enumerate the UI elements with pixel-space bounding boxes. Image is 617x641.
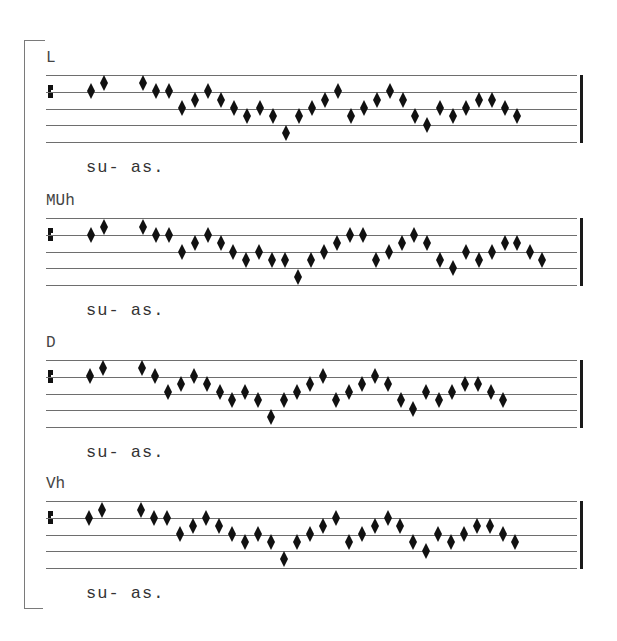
diamond-note-icon xyxy=(189,518,197,534)
diamond-note-icon xyxy=(100,75,108,91)
diamond-note-icon xyxy=(501,100,509,116)
diamond-note-icon xyxy=(228,526,236,542)
diamond-note-icon xyxy=(98,502,106,518)
diamond-note-icon xyxy=(319,368,327,384)
diamond-note-icon xyxy=(396,518,404,534)
diamond-note-icon xyxy=(243,108,251,124)
staff xyxy=(46,218,582,286)
diamond-note-icon xyxy=(138,360,146,376)
staff-line xyxy=(46,125,577,126)
diamond-note-icon xyxy=(373,92,381,108)
diamond-note-icon xyxy=(293,384,301,400)
diamond-note-icon xyxy=(151,368,159,384)
diamond-note-icon xyxy=(358,526,366,542)
diamond-note-icon xyxy=(165,227,173,243)
diamond-note-icon xyxy=(398,235,406,251)
diamond-note-icon xyxy=(280,551,288,567)
diamond-note-icon xyxy=(384,510,392,526)
diamond-note-icon xyxy=(423,117,431,133)
diamond-note-icon xyxy=(85,510,93,526)
diamond-note-icon xyxy=(422,384,430,400)
staff-line xyxy=(46,394,577,395)
diamond-note-icon xyxy=(538,252,546,268)
diamond-note-icon xyxy=(409,534,417,550)
diamond-note-icon xyxy=(332,392,340,408)
staff-line xyxy=(46,75,577,76)
diamond-note-icon xyxy=(280,392,288,408)
diamond-note-icon xyxy=(499,392,507,408)
staff-line xyxy=(46,360,577,361)
diamond-note-icon xyxy=(436,252,444,268)
diamond-note-icon xyxy=(230,100,238,116)
diamond-note-icon xyxy=(399,92,407,108)
diamond-note-icon xyxy=(306,526,314,542)
diamond-note-icon xyxy=(475,92,483,108)
diamond-note-icon xyxy=(203,376,211,392)
diamond-note-icon xyxy=(241,384,249,400)
diamond-note-icon xyxy=(281,252,289,268)
diamond-note-icon xyxy=(267,409,275,425)
diamond-note-icon xyxy=(165,83,173,99)
diamond-note-icon xyxy=(436,100,444,116)
diamond-note-icon xyxy=(87,83,95,99)
diamond-note-icon xyxy=(358,376,366,392)
diamond-note-icon xyxy=(295,108,303,124)
diamond-note-icon xyxy=(293,534,301,550)
final-barline xyxy=(580,218,583,286)
diamond-note-icon xyxy=(513,235,521,251)
diamond-note-icon xyxy=(332,510,340,526)
diamond-note-icon xyxy=(256,100,264,116)
diamond-note-icon xyxy=(228,392,236,408)
diamond-note-icon xyxy=(435,392,443,408)
diamond-note-icon xyxy=(100,219,108,235)
staff-line xyxy=(46,92,577,93)
diamond-note-icon xyxy=(487,384,495,400)
diamond-note-icon xyxy=(385,244,393,260)
diamond-note-icon xyxy=(241,534,249,550)
diamond-note-icon xyxy=(475,252,483,268)
diamond-note-icon xyxy=(178,100,186,116)
diamond-note-icon xyxy=(447,534,455,550)
diamond-note-icon xyxy=(360,100,368,116)
diamond-note-icon xyxy=(176,526,184,542)
staff-line xyxy=(46,501,577,502)
bracket-vertical-line xyxy=(24,40,25,608)
staff-line xyxy=(46,427,577,428)
diamond-note-icon xyxy=(333,235,341,251)
staff-line xyxy=(46,551,577,552)
diamond-note-icon xyxy=(461,376,469,392)
diamond-note-icon xyxy=(254,392,262,408)
diamond-note-icon xyxy=(423,235,431,251)
diamond-note-icon xyxy=(255,244,263,260)
voice-label: MUh xyxy=(46,192,75,210)
staff xyxy=(46,360,582,428)
diamond-note-icon xyxy=(449,260,457,276)
lyric-text: su- as. xyxy=(86,584,164,603)
diamond-note-icon xyxy=(229,244,237,260)
diamond-note-icon xyxy=(86,368,94,384)
diamond-note-icon xyxy=(462,244,470,260)
lyric-text: su- as. xyxy=(86,158,164,177)
lyric-text: su- as. xyxy=(86,443,164,462)
staff-line xyxy=(46,235,577,236)
diamond-note-icon xyxy=(448,384,456,400)
diamond-note-icon xyxy=(139,75,147,91)
diamond-note-icon xyxy=(462,100,470,116)
diamond-note-icon xyxy=(359,227,367,243)
final-barline xyxy=(580,75,583,143)
diamond-note-icon xyxy=(460,526,468,542)
diamond-note-icon xyxy=(347,108,355,124)
diamond-note-icon xyxy=(371,518,379,534)
diamond-note-icon xyxy=(486,518,494,534)
diamond-note-icon xyxy=(321,92,329,108)
diamond-note-icon xyxy=(422,543,430,559)
diamond-note-icon xyxy=(87,227,95,243)
diamond-note-icon xyxy=(163,510,171,526)
bracket-top-tick xyxy=(24,40,45,41)
staff-line xyxy=(46,218,577,219)
diamond-note-icon xyxy=(191,92,199,108)
staff xyxy=(46,75,582,143)
diamond-note-icon xyxy=(345,534,353,550)
diamond-note-icon xyxy=(202,510,210,526)
diamond-note-icon xyxy=(501,235,509,251)
